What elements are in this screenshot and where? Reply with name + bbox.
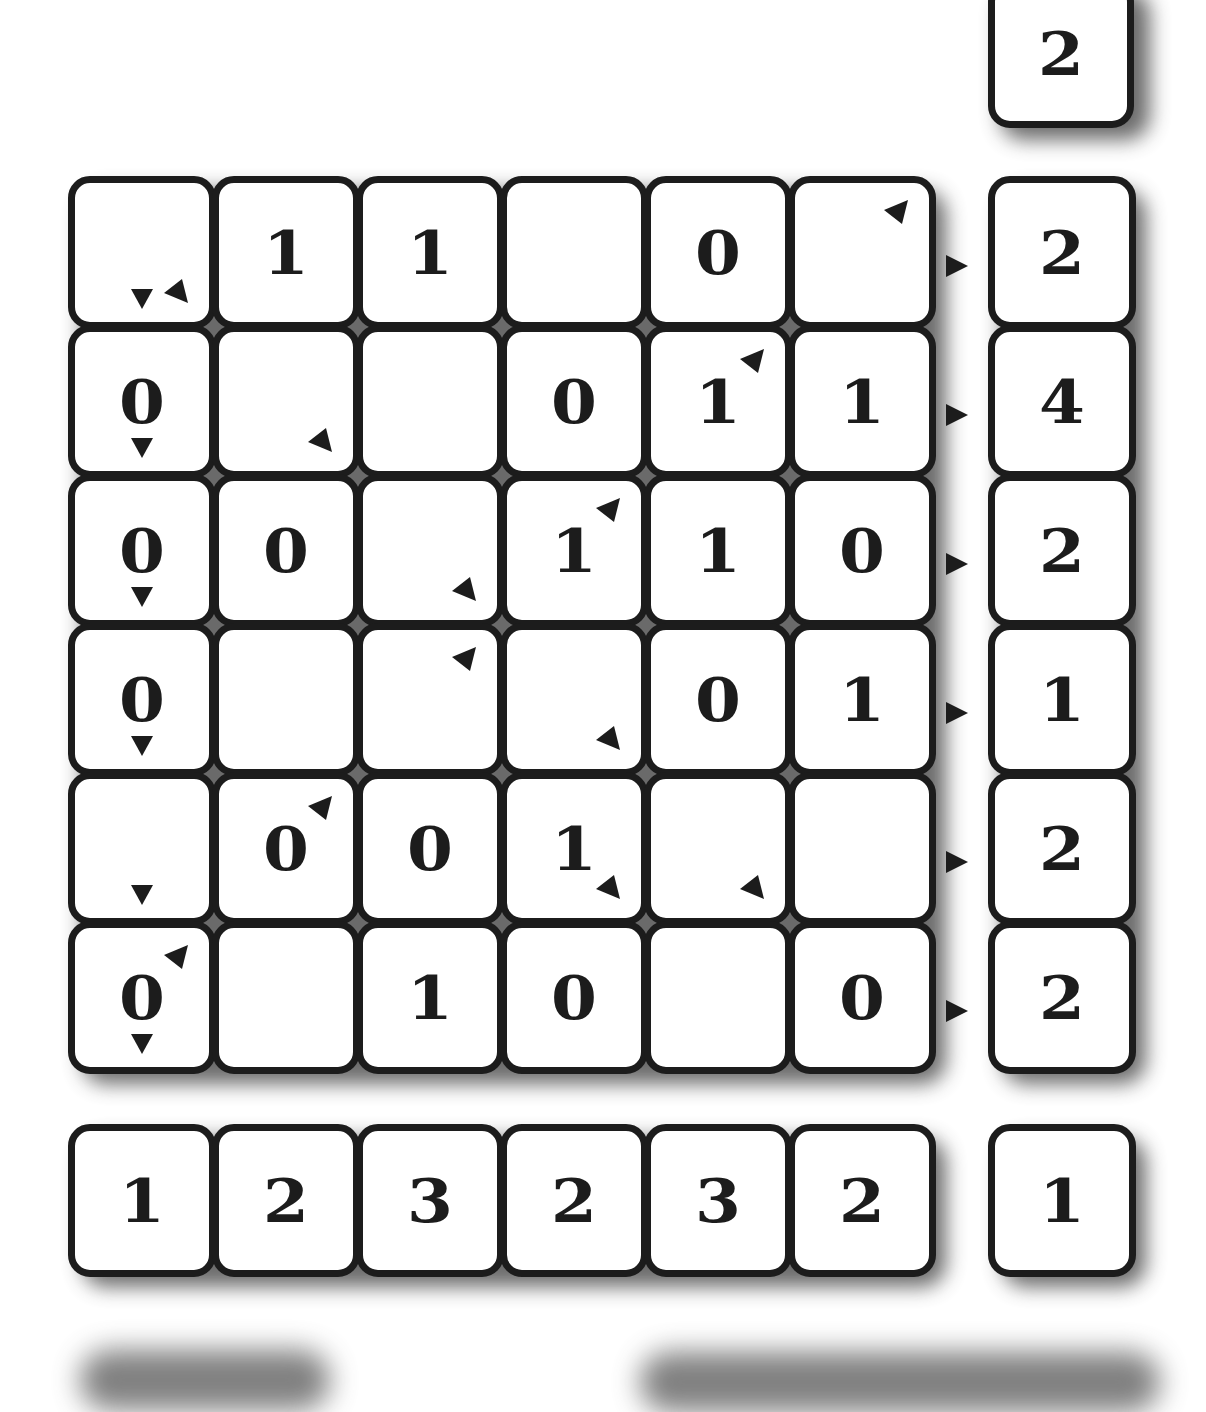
corner-clue-tile: 1: [988, 1124, 1136, 1277]
col-clue-value: 2: [839, 1171, 885, 1231]
cell-value: 0: [263, 819, 309, 879]
col-clue-value: 3: [695, 1171, 741, 1231]
col-clue-value: 1: [119, 1171, 165, 1231]
row-clue-value: 4: [1039, 372, 1085, 432]
row-clue-tile: 2: [988, 921, 1136, 1074]
grid-cell[interactable]: 0: [212, 474, 360, 627]
bottom-right-button-partial[interactable]: [640, 1352, 1160, 1412]
cell-value: 0: [695, 670, 741, 730]
grid-cell[interactable]: 0: [500, 921, 648, 1074]
up-right-corner-arrow-icon: [884, 200, 908, 224]
arrow-right-icon: [946, 553, 968, 575]
up-right-corner-arrow-icon: [452, 647, 476, 671]
grid-cell[interactable]: 0: [788, 921, 936, 1074]
cell-value: 0: [407, 819, 453, 879]
row-clue-value: 2: [1039, 968, 1085, 1028]
grid-cell[interactable]: [356, 623, 504, 776]
top-clue-value: 2: [1038, 24, 1084, 84]
grid-cell[interactable]: 1: [788, 325, 936, 478]
arrow-right-icon: [946, 851, 968, 873]
down-right-corner-arrow-icon: [308, 428, 332, 452]
cell-value: 1: [263, 223, 309, 283]
cell-value: 0: [119, 521, 165, 581]
arrow-right-icon: [946, 1000, 968, 1022]
grid-cell[interactable]: 0: [788, 474, 936, 627]
col-clue-value: 3: [407, 1171, 453, 1231]
arrow-right-icon: [946, 404, 968, 426]
up-right-corner-arrow-icon: [596, 498, 620, 522]
col-clue-tile: 1: [68, 1124, 216, 1277]
col-clue-tile: 2: [212, 1124, 360, 1277]
grid-cell[interactable]: [788, 176, 936, 329]
cell-value: 1: [407, 968, 453, 1028]
down-right-corner-arrow-icon: [452, 577, 476, 601]
grid-cell[interactable]: [644, 772, 792, 925]
cell-value: 0: [263, 521, 309, 581]
col-clue-tile: 3: [356, 1124, 504, 1277]
grid-cell[interactable]: [356, 474, 504, 627]
cell-value: 1: [551, 819, 597, 879]
cell-value: 0: [119, 372, 165, 432]
cell-value: 1: [839, 670, 885, 730]
grid-cell[interactable]: 0: [356, 772, 504, 925]
cell-value: 1: [695, 372, 741, 432]
grid-cell[interactable]: 0: [212, 772, 360, 925]
cell-value: 0: [551, 372, 597, 432]
row-clue-value: 2: [1039, 521, 1085, 581]
row-clue-tile: 2: [988, 176, 1136, 329]
col-clue-tile: 2: [788, 1124, 936, 1277]
grid-cell[interactable]: 1: [356, 921, 504, 1074]
cell-value: 1: [695, 521, 741, 581]
grid-cell[interactable]: [644, 921, 792, 1074]
down-arrow-icon: [131, 587, 153, 607]
cell-value: 0: [119, 670, 165, 730]
down-arrow-icon: [131, 1034, 153, 1054]
row-clue-tile: 2: [988, 772, 1136, 925]
grid-cell[interactable]: [212, 921, 360, 1074]
cell-value: 0: [119, 968, 165, 1028]
grid-cell[interactable]: 1: [212, 176, 360, 329]
col-clue-value: 2: [551, 1171, 597, 1231]
grid-cell[interactable]: 1: [788, 623, 936, 776]
down-right-corner-arrow-icon: [596, 726, 620, 750]
grid-cell[interactable]: [788, 772, 936, 925]
grid-cell[interactable]: [356, 325, 504, 478]
row-clue-value: 2: [1039, 223, 1085, 283]
down-right-corner-arrow-icon: [740, 875, 764, 899]
grid-cell[interactable]: 1: [644, 474, 792, 627]
grid-cell[interactable]: [500, 176, 648, 329]
grid-cell[interactable]: [500, 623, 648, 776]
cell-value: 0: [839, 968, 885, 1028]
up-right-corner-arrow-icon: [164, 945, 188, 969]
grid-cell[interactable]: 1: [356, 176, 504, 329]
row-clue-tile: 2: [988, 474, 1136, 627]
cell-value: 1: [839, 372, 885, 432]
down-arrow-icon: [131, 885, 153, 905]
cell-value: 0: [695, 223, 741, 283]
col-clue-tile: 3: [644, 1124, 792, 1277]
grid-cell[interactable]: 1: [500, 772, 648, 925]
bottom-left-button-partial[interactable]: [80, 1350, 330, 1410]
cell-value: 1: [551, 521, 597, 581]
down-right-corner-arrow-icon: [164, 279, 188, 303]
arrow-right-icon: [946, 702, 968, 724]
row-clue-tile: 1: [988, 623, 1136, 776]
up-right-corner-arrow-icon: [740, 349, 764, 373]
grid-cell[interactable]: 0: [500, 325, 648, 478]
grid-cell[interactable]: 1: [500, 474, 648, 627]
grid-cell[interactable]: 1: [644, 325, 792, 478]
arrow-right-icon: [946, 255, 968, 277]
col-clue-value: 2: [263, 1171, 309, 1231]
grid-cell[interactable]: [212, 325, 360, 478]
corner-clue-value: 1: [1039, 1171, 1085, 1231]
row-clue-value: 2: [1039, 819, 1085, 879]
grid-cell[interactable]: [212, 623, 360, 776]
down-arrow-icon: [131, 289, 153, 309]
cell-value: 1: [407, 223, 453, 283]
grid-cell[interactable]: 0: [644, 623, 792, 776]
col-clue-tile: 2: [500, 1124, 648, 1277]
grid-cell[interactable]: 0: [644, 176, 792, 329]
cell-value: 0: [551, 968, 597, 1028]
top-clue-tile: 2: [988, 0, 1134, 128]
row-clue-tile: 4: [988, 325, 1136, 478]
